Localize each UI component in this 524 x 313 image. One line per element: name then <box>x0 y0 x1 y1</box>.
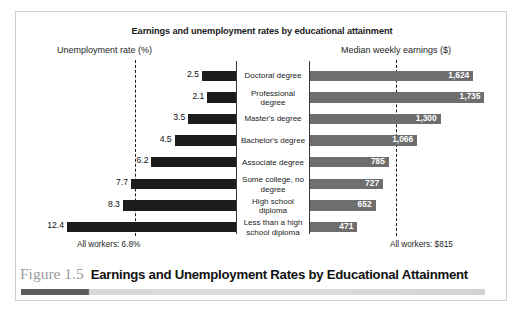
earnings-value-label: 785 <box>351 156 385 166</box>
unemployment-value-label: 12.4 <box>47 220 64 230</box>
bar-row: 12.4Less than a high school diploma471 <box>0 217 524 239</box>
category-label: Master's degree <box>238 115 308 124</box>
figure-container: Earnings and unemployment rates by educa… <box>0 0 524 313</box>
unemployment-bar <box>123 200 236 211</box>
bar-row: 4.5Bachelor's degree1,066 <box>0 130 524 152</box>
unemployment-bar <box>188 114 236 125</box>
unemployment-bar <box>131 179 236 190</box>
category-label: High school diploma <box>238 196 308 215</box>
unemployment-value-label: 6.2 <box>137 155 149 165</box>
earnings-value-label: 1,300 <box>403 113 437 123</box>
right-footnote: All workers: $815 <box>390 240 453 249</box>
bar-row: 8.3High school diploma652 <box>0 195 524 217</box>
unemployment-value-label: 4.5 <box>160 134 172 144</box>
earnings-value-label: 652 <box>338 199 372 209</box>
earnings-value-label: 471 <box>319 221 353 231</box>
caption-divider-bar <box>21 289 485 295</box>
left-footnote: All workers: 6.8% <box>77 240 140 249</box>
unemployment-bar <box>202 71 236 82</box>
unemployment-bar <box>175 135 236 146</box>
figure-number: Figure 1.5 <box>20 265 84 283</box>
bar-row: 2.5Doctoral degree1,624 <box>0 66 524 88</box>
figure-caption: Figure 1.5 Earnings and Unemployment Rat… <box>20 262 504 286</box>
unemployment-value-label: 3.5 <box>173 112 185 122</box>
category-label: Less than a high school diploma <box>238 218 308 237</box>
category-label: Associate degree <box>238 158 308 167</box>
unemployment-value-label: 8.3 <box>108 199 120 209</box>
category-label: Doctoral degree <box>238 72 308 81</box>
unemployment-bar <box>67 222 236 233</box>
category-label: Some college, no degree <box>238 175 308 194</box>
unemployment-value-label: 2.1 <box>192 91 204 101</box>
earnings-value-label: 1,735 <box>446 91 480 101</box>
bar-row: 2.1Professional degree1,735 <box>0 87 524 109</box>
bar-row: 7.7Some college, no degree727 <box>0 174 524 196</box>
unemployment-bar <box>151 157 236 168</box>
earnings-value-label: 1,066 <box>379 134 413 144</box>
unemployment-value-label: 7.7 <box>116 177 128 187</box>
category-label: Professional degree <box>238 88 308 107</box>
bar-row: 6.2Associate degree785 <box>0 152 524 174</box>
category-label: Bachelor's degree <box>238 136 308 145</box>
unemployment-bar <box>207 92 236 103</box>
figure-caption-title: Earnings and Unemployment Rates by Educa… <box>91 267 468 282</box>
earnings-value-label: 1,624 <box>435 70 469 80</box>
unemployment-value-label: 2.5 <box>187 69 199 79</box>
bar-row: 3.5Master's degree1,300 <box>0 109 524 131</box>
earnings-value-label: 727 <box>345 178 379 188</box>
